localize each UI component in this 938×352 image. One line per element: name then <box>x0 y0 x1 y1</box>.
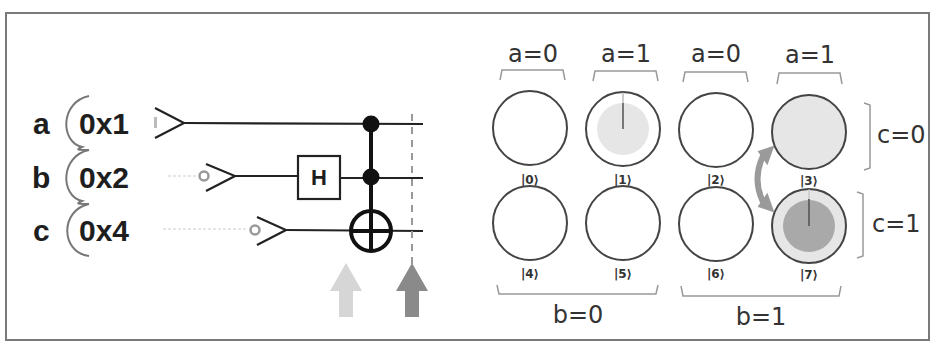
ket-label-7: |7⟩ <box>800 268 818 282</box>
state-circle-2[interactable] <box>679 93 753 167</box>
register-letter-c: c <box>33 214 50 247</box>
column-bracket-1 <box>593 71 658 81</box>
row-bracket-1 <box>857 192 863 258</box>
register-letter-a: a <box>33 107 50 140</box>
group-label-1: b=1 <box>736 303 787 331</box>
ket-label-2: |2⟩ <box>707 173 725 187</box>
column-bracket-2 <box>683 72 748 82</box>
column-bracket-0 <box>500 70 565 80</box>
state-circle-4[interactable] <box>493 186 567 260</box>
state-circle-3[interactable] <box>772 95 846 169</box>
swap-arrow-icon <box>758 156 764 202</box>
input-chevron-a-icon <box>155 108 184 138</box>
init-circle-b-icon <box>200 172 209 181</box>
diagram-canvas: a b c 0x1 0x2 0x4 H <box>0 0 938 352</box>
ket-label-6: |6⟩ <box>707 267 725 281</box>
ket-label-4: |4⟩ <box>521 267 539 281</box>
row-bracket-0 <box>864 103 870 170</box>
hadamard-label: H <box>311 165 327 190</box>
control-dot-a-icon <box>363 116 380 133</box>
state-circle-0[interactable] <box>493 91 567 165</box>
row-label-0: c=0 <box>877 121 926 149</box>
column-bracket-3 <box>777 73 842 84</box>
input-chevron-b-icon <box>206 164 235 191</box>
init-circle-c-icon <box>251 226 260 235</box>
input-chevron-c-icon <box>257 217 286 245</box>
register-value-a: 0x1 <box>79 107 129 140</box>
wire-a <box>184 123 423 124</box>
ket-label-0: |0⟩ <box>521 173 539 187</box>
ket-label-3: |3⟩ <box>800 174 818 188</box>
ket-label-1: |1⟩ <box>614 173 632 187</box>
row-label-1: c=1 <box>872 210 921 238</box>
state-grid: a=0 a=1 a=0 a=1 |0⟩ |1⟩ |2⟩ |3⟩ |4⟩ |5⟩ <box>493 40 926 331</box>
register-letter-b: b <box>32 161 50 194</box>
state-circle-5[interactable] <box>586 186 660 260</box>
control-dot-b-icon <box>363 169 380 186</box>
column-label-0: a=0 <box>508 40 558 68</box>
state-circle-6[interactable] <box>679 187 753 261</box>
register-value-c: 0x4 <box>79 214 129 247</box>
register-value-b: 0x2 <box>79 161 129 194</box>
column-label-1: a=1 <box>601 40 651 68</box>
ket-label-5: |5⟩ <box>614 267 632 281</box>
column-label-3: a=1 <box>785 41 835 69</box>
after-step-arrow-icon[interactable] <box>396 263 428 317</box>
before-step-arrow-icon[interactable] <box>330 263 362 317</box>
group-bracket-1 <box>681 286 841 296</box>
column-label-2: a=0 <box>691 40 741 68</box>
group-bracket-0 <box>497 285 658 294</box>
init-mark-a-icon <box>154 117 157 128</box>
circuit: a b c 0x1 0x2 0x4 H <box>32 96 428 317</box>
group-label-0: b=0 <box>553 301 604 329</box>
